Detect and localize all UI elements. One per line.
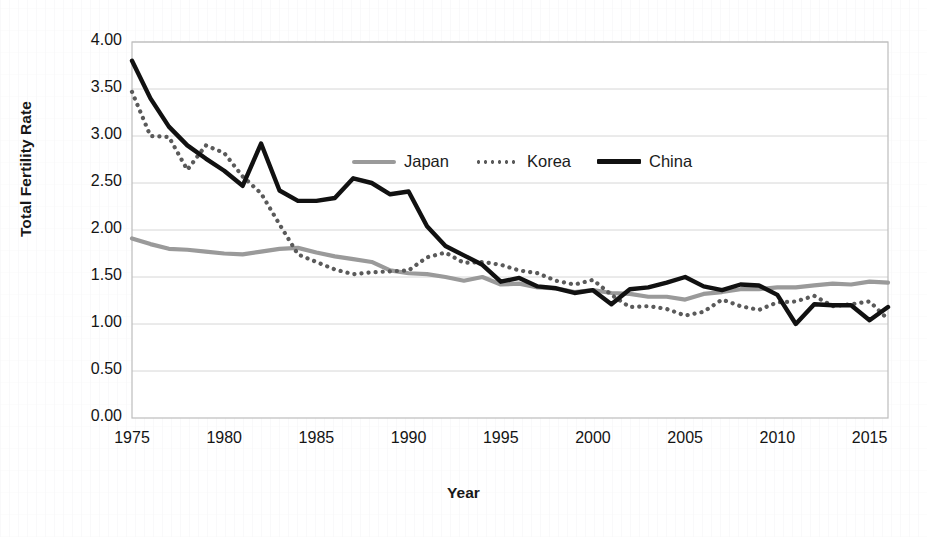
legend-item-label: Japan [404,152,449,171]
legend-item-label: Korea [527,152,571,171]
legend-item-japan[interactable]: Japan [352,152,449,171]
legend-item-korea[interactable]: Korea [475,152,571,171]
legend-item-china[interactable]: China [597,152,692,171]
legend-item-label: China [649,152,692,171]
dotted-gray-line-icon [475,155,519,169]
fertility-rate-chart: Total Fertility Rate Year 0.000.501.001.… [0,0,927,537]
chart-legend: JapanKoreaChina [352,152,692,171]
solid-black-line-icon [597,155,641,169]
plot-area [0,0,927,537]
solid-gray-line-icon [352,155,396,169]
